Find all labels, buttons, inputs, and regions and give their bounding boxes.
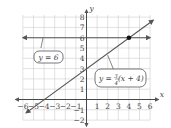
x-tick-label: 5 [137,102,142,111]
y-tick-label: 1 [80,85,85,94]
series-line-2 [26,20,153,113]
x-tick-label: 2 [105,102,110,111]
x-tick-label: −2 [60,102,71,111]
y-tick-label: 2 [80,75,85,84]
y-tick-label: 8 [80,13,85,22]
x-tick-label: −3 [49,102,60,111]
x-tick-label: −6 [17,102,28,111]
y-tick-label: 7 [80,23,85,32]
y-tick-label: −1 [73,106,84,115]
callout-label-y6: y = 6 [37,53,58,62]
x-tick-label: 3 [116,102,121,111]
y-tick-label: 4 [80,54,85,63]
x-axis-label: x [160,90,165,99]
callout-pointer [41,38,43,48]
y-axis-label: y [89,4,95,13]
intersection-point [127,35,132,40]
x-tick-label: 6 [148,102,153,111]
x-tick-label: 4 [127,102,132,111]
y-tick-label: 5 [80,44,85,53]
x-tick-label: 1 [95,102,100,111]
y-tick-label: −2 [73,116,84,125]
x-tick-label: −5 [28,102,39,111]
coordinate-plane: xy−6−5−4−3−2−1123456−2−112345678y = 6y =… [0,0,171,128]
